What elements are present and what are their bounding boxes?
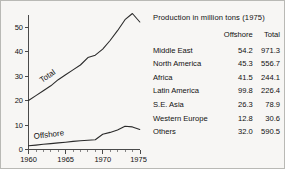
series-line-total (29, 14, 140, 101)
y-tick-label-50: 50 (15, 23, 23, 32)
cell-region: Others (153, 128, 215, 142)
x-tick-label-1965: 1965 (57, 155, 74, 164)
table-title: Production in million tons (1975) (153, 13, 280, 22)
table-body: Middle East 54.2 971.3 North America 45.… (153, 47, 280, 142)
cell-total: 971.3 (253, 47, 280, 61)
cell-total: 590.5 (253, 128, 280, 142)
cell-region: Western Europe (153, 115, 215, 129)
table-row: Middle East 54.2 971.3 (153, 47, 280, 61)
table-header-row: Offshore Total (153, 31, 280, 47)
production-table: Offshore Total Middle East 54.2 971.3 No… (153, 31, 280, 142)
line-chart-panel: 0 10 20 30 40 50 1960 1965 1970 1975 Tot… (1, 1, 147, 169)
cell-total: 226.4 (253, 87, 280, 101)
series-label-offshore: Offshore (33, 128, 65, 141)
table-row: Western Europe 12.8 30.6 (153, 115, 280, 129)
y-tick-label-0: 0 (19, 145, 23, 154)
table-row: North America 45.3 556.7 (153, 60, 280, 74)
cell-total: 30.6 (253, 115, 280, 129)
y-tick-label-10: 10 (15, 121, 23, 130)
cell-total: 556.7 (253, 60, 280, 74)
cell-total: 244.1 (253, 74, 280, 88)
table-row: Africa 41.5 244.1 (153, 74, 280, 88)
table-header: Offshore Total (153, 31, 280, 47)
table-row: Others 32.0 590.5 (153, 128, 280, 142)
cell-offshore: 41.5 (215, 74, 253, 88)
chart-svg: 0 10 20 30 40 50 1960 1965 1970 1975 Tot… (1, 1, 147, 169)
cell-region: S.E. Asia (153, 101, 215, 115)
production-table-panel: Production in million tons (1975) Offsho… (149, 1, 285, 169)
x-tick-label-1960: 1960 (20, 155, 37, 164)
cell-offshore: 45.3 (215, 60, 253, 74)
table-row: S.E. Asia 26.3 78.9 (153, 101, 280, 115)
column-header-total: Total (253, 31, 280, 47)
y-tick-label-40: 40 (15, 47, 23, 56)
cell-offshore: 12.8 (215, 115, 253, 129)
y-tick-label-30: 30 (15, 72, 23, 81)
y-tick-label-20: 20 (15, 96, 23, 105)
figure-container: 0 10 20 30 40 50 1960 1965 1970 1975 Tot… (0, 0, 285, 169)
y-axis-ticks (25, 27, 29, 150)
cell-offshore: 26.3 (215, 101, 253, 115)
cell-region: Africa (153, 74, 215, 88)
cell-offshore: 54.2 (215, 47, 253, 61)
cell-region: Middle East (153, 47, 215, 61)
cell-total: 78.9 (253, 101, 280, 115)
cell-region: North America (153, 60, 215, 74)
table-row: Latin America 99.8 226.4 (153, 87, 280, 101)
cell-region: Latin America (153, 87, 215, 101)
x-tick-label-1975: 1975 (130, 155, 147, 164)
column-header-offshore: Offshore (215, 31, 253, 47)
cell-offshore: 32.0 (215, 128, 253, 142)
column-header-region (153, 31, 215, 47)
x-tick-label-1970: 1970 (94, 155, 111, 164)
cell-offshore: 99.8 (215, 87, 253, 101)
x-axis-ticks (29, 150, 141, 154)
